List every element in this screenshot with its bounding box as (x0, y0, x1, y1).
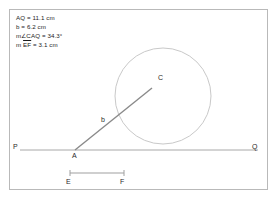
point-label-f[interactable]: F (120, 178, 124, 185)
measurement-panel: AQ = 11.1 cm b = 6.2 cm m∠CAQ = 34.3° m … (16, 13, 136, 49)
circle-c[interactable] (115, 48, 211, 144)
length-label-b[interactable]: b (101, 116, 105, 123)
measurement-aq[interactable]: AQ = 11.1 cm (16, 13, 136, 22)
measurement-b[interactable]: b = 6.2 cm (16, 22, 136, 31)
measurement-ef-segment-name: EF (23, 41, 31, 48)
point-label-a[interactable]: A (72, 152, 77, 159)
point-label-p[interactable]: P (13, 143, 18, 150)
point-label-c[interactable]: C (158, 74, 163, 81)
measurement-angle-caq[interactable]: m∠CAQ = 34.3° (16, 31, 136, 40)
point-label-q[interactable]: Q (252, 143, 257, 150)
ray-ac[interactable] (75, 88, 152, 150)
sketch-application: AQ = 11.1 cm b = 6.2 cm m∠CAQ = 34.3° m … (0, 0, 278, 200)
point-label-e[interactable]: E (66, 178, 71, 185)
measurement-ef-value: = 3.1 cm (31, 41, 58, 48)
measurement-ef[interactable]: m EF = 3.1 cm (16, 40, 136, 49)
